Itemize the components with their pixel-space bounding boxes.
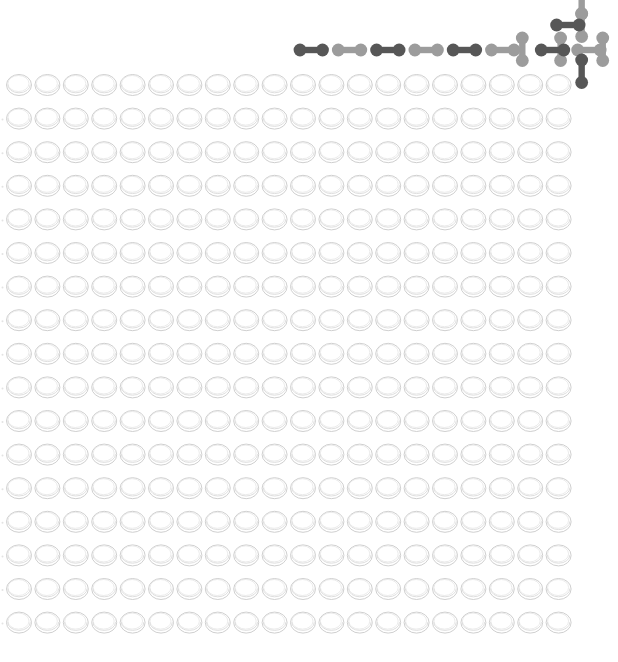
- board-hole[interactable]: [546, 75, 571, 96]
- board-hole[interactable]: [35, 75, 60, 96]
- board-hole[interactable]: [234, 579, 259, 600]
- board-hole[interactable]: [234, 310, 259, 331]
- board-hole[interactable]: [92, 411, 117, 432]
- board-hole[interactable]: [404, 478, 429, 499]
- board-hole[interactable]: [546, 175, 571, 196]
- board-hole[interactable]: [489, 444, 514, 465]
- board-hole[interactable]: [319, 612, 344, 633]
- board-hole[interactable]: [518, 175, 543, 196]
- board-hole[interactable]: [518, 343, 543, 364]
- board-hole[interactable]: [35, 276, 60, 297]
- board-hole[interactable]: [63, 411, 88, 432]
- board-hole[interactable]: [319, 411, 344, 432]
- board-hole[interactable]: [149, 108, 174, 129]
- board-hole[interactable]: [546, 209, 571, 230]
- board-hole[interactable]: [319, 108, 344, 129]
- board-hole[interactable]: [120, 108, 145, 129]
- board-hole[interactable]: [347, 478, 372, 499]
- board-hole[interactable]: [205, 612, 230, 633]
- dumbbell-piece-dark[interactable]: [575, 54, 588, 89]
- board-hole[interactable]: [518, 579, 543, 600]
- board-hole[interactable]: [7, 108, 32, 129]
- board-hole[interactable]: [205, 276, 230, 297]
- board-hole[interactable]: [291, 276, 316, 297]
- board-hole[interactable]: [177, 343, 202, 364]
- board-hole[interactable]: [518, 411, 543, 432]
- board-hole[interactable]: [518, 243, 543, 264]
- board-hole[interactable]: [149, 444, 174, 465]
- board-hole[interactable]: [489, 243, 514, 264]
- board-hole[interactable]: [92, 377, 117, 398]
- board-hole[interactable]: [461, 209, 486, 230]
- board-hole[interactable]: [433, 545, 458, 566]
- board-hole[interactable]: [92, 209, 117, 230]
- board-hole[interactable]: [461, 310, 486, 331]
- board-hole[interactable]: [546, 276, 571, 297]
- board-hole[interactable]: [546, 579, 571, 600]
- board-hole[interactable]: [433, 276, 458, 297]
- board-hole[interactable]: [489, 142, 514, 163]
- board-hole[interactable]: [63, 108, 88, 129]
- board-hole[interactable]: [489, 108, 514, 129]
- board-hole[interactable]: [489, 478, 514, 499]
- board-hole[interactable]: [63, 175, 88, 196]
- board-hole[interactable]: [546, 243, 571, 264]
- board-hole[interactable]: [205, 411, 230, 432]
- board-hole[interactable]: [262, 276, 287, 297]
- board-hole[interactable]: [376, 243, 401, 264]
- board-hole[interactable]: [177, 209, 202, 230]
- board-hole[interactable]: [461, 175, 486, 196]
- board-hole[interactable]: [291, 511, 316, 532]
- board-hole[interactable]: [461, 411, 486, 432]
- board-hole[interactable]: [149, 75, 174, 96]
- board-hole[interactable]: [376, 75, 401, 96]
- board-hole[interactable]: [7, 511, 32, 532]
- board-hole[interactable]: [234, 108, 259, 129]
- board-hole[interactable]: [433, 444, 458, 465]
- board-hole[interactable]: [319, 142, 344, 163]
- board-hole[interactable]: [120, 75, 145, 96]
- board-hole[interactable]: [433, 142, 458, 163]
- board-hole[interactable]: [546, 310, 571, 331]
- board-hole[interactable]: [461, 478, 486, 499]
- board-hole[interactable]: [546, 343, 571, 364]
- board-hole[interactable]: [120, 243, 145, 264]
- board-hole[interactable]: [433, 243, 458, 264]
- board-hole[interactable]: [376, 444, 401, 465]
- board-hole[interactable]: [35, 411, 60, 432]
- board-hole[interactable]: [63, 243, 88, 264]
- board-hole[interactable]: [120, 545, 145, 566]
- board-hole[interactable]: [433, 75, 458, 96]
- board-hole[interactable]: [262, 411, 287, 432]
- board-hole[interactable]: [489, 545, 514, 566]
- board-hole[interactable]: [518, 377, 543, 398]
- board-hole[interactable]: [433, 511, 458, 532]
- board-hole[interactable]: [92, 243, 117, 264]
- board-hole[interactable]: [234, 243, 259, 264]
- board-hole[interactable]: [177, 175, 202, 196]
- board-hole[interactable]: [518, 612, 543, 633]
- board-hole[interactable]: [433, 579, 458, 600]
- board-hole[interactable]: [319, 343, 344, 364]
- board-hole[interactable]: [433, 478, 458, 499]
- board-hole[interactable]: [291, 310, 316, 331]
- board-hole[interactable]: [546, 411, 571, 432]
- board-hole[interactable]: [120, 377, 145, 398]
- board-hole[interactable]: [433, 310, 458, 331]
- board-hole[interactable]: [262, 209, 287, 230]
- board-hole[interactable]: [262, 142, 287, 163]
- board-hole[interactable]: [319, 175, 344, 196]
- board-hole[interactable]: [177, 579, 202, 600]
- board-hole[interactable]: [63, 545, 88, 566]
- board-hole[interactable]: [319, 478, 344, 499]
- board-hole[interactable]: [404, 579, 429, 600]
- board-hole[interactable]: [489, 276, 514, 297]
- board-hole[interactable]: [92, 310, 117, 331]
- board-hole[interactable]: [291, 411, 316, 432]
- board-hole[interactable]: [404, 310, 429, 331]
- board-hole[interactable]: [546, 444, 571, 465]
- board-hole[interactable]: [149, 343, 174, 364]
- board-hole[interactable]: [347, 612, 372, 633]
- board-hole[interactable]: [518, 142, 543, 163]
- board-hole[interactable]: [433, 108, 458, 129]
